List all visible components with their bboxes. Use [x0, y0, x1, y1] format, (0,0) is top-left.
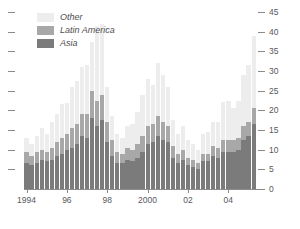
bar-column[interactable] — [156, 12, 160, 189]
bar-segment — [206, 154, 210, 162]
bar-column[interactable] — [201, 12, 205, 189]
y-axis-tick-right — [258, 150, 265, 151]
bar-segment — [176, 163, 180, 189]
bar-segment — [125, 126, 129, 148]
bar-segment — [60, 104, 64, 137]
bar-segment — [40, 128, 44, 150]
bar-segment — [191, 160, 195, 168]
bar-column[interactable] — [191, 12, 195, 189]
bar-segment — [181, 160, 185, 190]
bar-segment — [166, 87, 170, 126]
bar-segment — [140, 95, 144, 136]
bar-segment — [181, 150, 185, 160]
legend-item[interactable]: Other — [37, 12, 115, 22]
bar-column[interactable] — [130, 12, 134, 189]
y-axis-tick-right — [258, 91, 265, 92]
bar-column[interactable] — [120, 12, 124, 189]
bar-column[interactable] — [196, 12, 200, 189]
bar-segment — [75, 144, 79, 189]
bar-segment — [221, 140, 225, 152]
bar-segment — [231, 152, 235, 189]
bar-segment — [29, 156, 33, 166]
bar-column[interactable] — [151, 12, 155, 189]
bar-segment — [135, 158, 139, 189]
bar-segment — [115, 134, 119, 152]
bar-column[interactable] — [231, 12, 235, 189]
bar-segment — [55, 156, 59, 189]
y-axis-tick-label: 35 — [269, 47, 278, 56]
x-axis-tick-label: 96 — [62, 196, 71, 205]
bar-segment — [171, 158, 175, 189]
bar-column[interactable] — [252, 12, 256, 189]
y-axis-tick-left — [8, 91, 15, 92]
bar-segment — [206, 132, 210, 154]
bar-column[interactable] — [140, 12, 144, 189]
bar-segment — [252, 36, 256, 109]
legend-swatch-icon — [37, 26, 54, 35]
bar-column[interactable] — [125, 12, 129, 189]
bar-segment — [221, 102, 225, 139]
bar-segment — [65, 150, 69, 189]
y-axis-tick-right — [258, 130, 265, 131]
stacked-bar-chart: 0510152025303540451994969820000204 Other… — [0, 0, 300, 229]
y-axis-tick-right — [258, 71, 265, 72]
x-axis-tick — [67, 190, 68, 193]
bar-column[interactable] — [176, 12, 180, 189]
bar-column[interactable] — [186, 12, 190, 189]
bar-segment — [186, 165, 190, 189]
bar-segment — [35, 163, 39, 189]
bar-segment — [216, 158, 220, 189]
bar-column[interactable] — [181, 12, 185, 189]
y-axis-tick-right — [258, 12, 265, 13]
bar-segment — [252, 124, 256, 189]
bar-column[interactable] — [24, 12, 28, 189]
bar-segment — [100, 95, 104, 121]
bar-segment — [236, 150, 240, 189]
y-axis-tick-right — [258, 110, 265, 111]
bar-column[interactable] — [166, 12, 170, 189]
bar-column[interactable] — [171, 12, 175, 189]
legend-item[interactable]: Latin America — [37, 25, 115, 35]
bar-segment — [55, 142, 59, 156]
bar-segment — [115, 163, 119, 189]
legend-item-label: Other — [60, 13, 83, 22]
bar-segment — [35, 152, 39, 164]
bar-column[interactable] — [226, 12, 230, 189]
bar-segment — [120, 154, 124, 164]
bar-segment — [70, 148, 74, 189]
x-axis-tick — [27, 190, 28, 193]
bar-column[interactable] — [216, 12, 220, 189]
bar-column[interactable] — [135, 12, 139, 189]
y-axis-tick-label: 20 — [269, 106, 278, 115]
bar-segment — [161, 122, 165, 140]
bar-segment — [201, 154, 205, 162]
bar-segment — [50, 122, 54, 148]
bar-column[interactable] — [161, 12, 165, 189]
bar-segment — [70, 87, 74, 128]
bar-column[interactable] — [115, 12, 119, 189]
bar-column[interactable] — [246, 12, 250, 189]
bar-column[interactable] — [211, 12, 215, 189]
bar-segment — [241, 140, 245, 189]
bar-column[interactable] — [29, 12, 33, 189]
y-axis-tick-left — [8, 150, 15, 151]
bar-segment — [151, 124, 155, 142]
bar-column[interactable] — [241, 12, 245, 189]
bar-segment — [140, 136, 144, 152]
legend-item[interactable]: Asia — [37, 38, 115, 48]
x-axis-tick — [107, 190, 108, 193]
bar-column[interactable] — [221, 12, 225, 189]
bar-segment — [110, 140, 114, 156]
y-axis-tick-left — [8, 51, 15, 52]
bar-column[interactable] — [206, 12, 210, 189]
bar-segment — [80, 67, 84, 114]
bar-segment — [130, 161, 134, 189]
x-axis-tick-label: 98 — [102, 196, 111, 205]
bar-segment — [211, 156, 215, 189]
bar-segment — [231, 108, 235, 139]
bar-column[interactable] — [236, 12, 240, 189]
bar-segment — [80, 114, 84, 136]
bar-segment — [252, 108, 256, 124]
bar-segment — [115, 152, 119, 164]
bar-column[interactable] — [146, 12, 150, 189]
